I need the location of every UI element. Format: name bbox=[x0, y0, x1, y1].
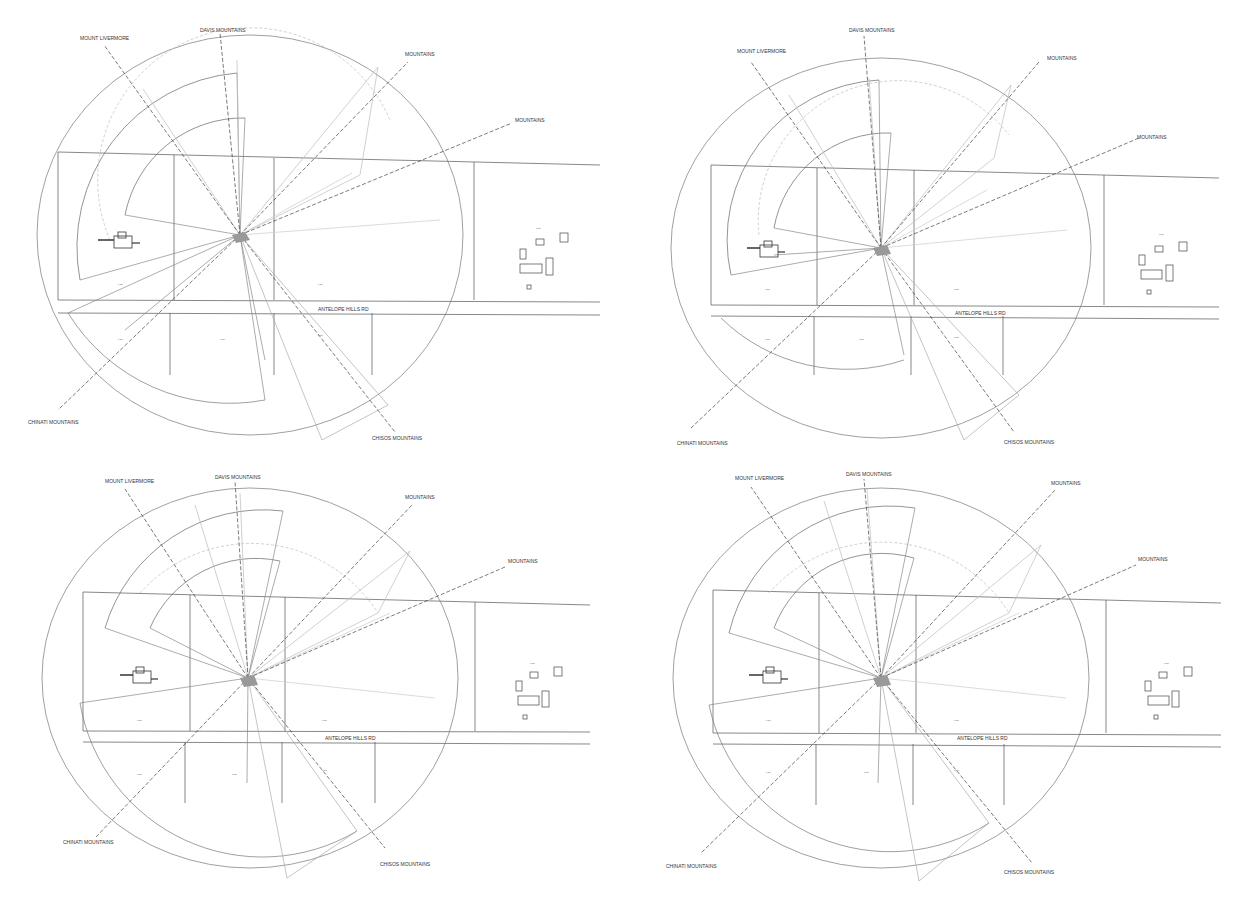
lot-labels: LOT LOT LOT LOT LOT LOT bbox=[765, 233, 1164, 341]
label-mountains-ene: MOUNTAINS bbox=[515, 117, 545, 123]
label-chisos-mountains: CHISOS MOUNTAINS bbox=[380, 861, 431, 867]
outbuildings-group bbox=[516, 667, 562, 719]
site-plan-panel-top-left: LOT LOT LOT LOT LOT LOT MOUNT LIVERMORE … bbox=[0, 0, 619, 453]
outbuildings-group bbox=[520, 233, 568, 289]
view-cone-diagram: LOT LOT LOT LOT LOT LOT MOUNT LIVERMORE … bbox=[619, 0, 1238, 453]
svg-text:LOT: LOT bbox=[766, 771, 771, 774]
svg-text:LOT: LOT bbox=[318, 334, 323, 337]
svg-text:LOT: LOT bbox=[1159, 233, 1164, 236]
outbuildings-group bbox=[1145, 667, 1192, 719]
label-mountains-ene: MOUNTAINS bbox=[1137, 134, 1167, 140]
residence-icon bbox=[749, 667, 788, 683]
svg-text:LOT: LOT bbox=[137, 773, 142, 776]
svg-text:LOT: LOT bbox=[864, 771, 869, 774]
site-plan-panel-top-right: LOT LOT LOT LOT LOT LOT MOUNT LIVERMORE … bbox=[619, 0, 1238, 453]
label-chisos-mountains: CHISOS MOUNTAINS bbox=[1004, 869, 1055, 875]
svg-text:LOT: LOT bbox=[954, 288, 959, 291]
label-davis-mountains: DAVIS MOUNTAINS bbox=[849, 27, 895, 33]
label-davis-mountains: DAVIS MOUNTAINS bbox=[846, 471, 892, 477]
label-chinati-mountains: CHINATI MOUNTAINS bbox=[63, 839, 114, 845]
svg-text:LOT: LOT bbox=[137, 719, 142, 722]
outbuildings-group bbox=[1139, 242, 1187, 294]
svg-text:LOT: LOT bbox=[1164, 662, 1169, 665]
viewpoint-marker bbox=[873, 245, 891, 256]
label-mount-livermore: MOUNT LIVERMORE bbox=[735, 475, 785, 481]
label-mountains-ne: MOUNTAINS bbox=[405, 494, 435, 500]
view-cone-diagram: LOT LOT LOT LOT LOT LOT MOUNT LIVERMORE … bbox=[619, 453, 1238, 906]
label-road: ANTELOPE HILLS RD bbox=[955, 310, 1006, 316]
lot-labels: LOT LOT LOT LOT LOT LOT bbox=[118, 227, 541, 341]
site-plan-panel-bottom-right: LOT LOT LOT LOT LOT LOT MOUNT LIVERMORE … bbox=[619, 453, 1238, 906]
svg-text:LOT: LOT bbox=[954, 336, 959, 339]
label-mount-livermore: MOUNT LIVERMORE bbox=[105, 478, 155, 484]
viewpoint-marker bbox=[232, 232, 250, 243]
site-plan-panel-bottom-left: LOT LOT LOT LOT LOT LOT MOUNT LIVERMORE … bbox=[0, 453, 619, 906]
svg-text:LOT: LOT bbox=[859, 338, 864, 341]
label-chisos-mountains: CHISOS MOUNTAINS bbox=[1004, 439, 1055, 445]
label-davis-mountains: DAVIS MOUNTAINS bbox=[215, 474, 261, 480]
lot-labels: LOT LOT LOT LOT LOT LOT bbox=[766, 662, 1169, 774]
svg-text:LOT: LOT bbox=[954, 769, 959, 772]
viewpoint-marker bbox=[240, 675, 258, 687]
label-chinati-mountains: CHINATI MOUNTAINS bbox=[666, 863, 717, 869]
label-chisos-mountains: CHISOS MOUNTAINS bbox=[372, 435, 423, 441]
svg-text:LOT: LOT bbox=[765, 288, 770, 291]
svg-text:LOT: LOT bbox=[322, 769, 327, 772]
label-road: ANTELOPE HILLS RD bbox=[318, 306, 369, 312]
svg-text:LOT: LOT bbox=[318, 283, 323, 286]
label-mountains-ne: MOUNTAINS bbox=[1051, 480, 1081, 486]
label-mount-livermore: MOUNT LIVERMORE bbox=[80, 35, 130, 41]
label-mountains-ene: MOUNTAINS bbox=[1138, 556, 1168, 562]
label-chinati-mountains: CHINATI MOUNTAINS bbox=[677, 440, 728, 446]
svg-text:LOT: LOT bbox=[118, 283, 123, 286]
view-cone-diagram: LOT LOT LOT LOT LOT LOT MOUNT LIVERMORE … bbox=[0, 453, 619, 906]
svg-text:LOT: LOT bbox=[765, 338, 770, 341]
svg-text:LOT: LOT bbox=[954, 719, 959, 722]
svg-text:LOT: LOT bbox=[220, 338, 225, 341]
label-mountains-ene: MOUNTAINS bbox=[508, 558, 538, 564]
viewpoint-marker bbox=[873, 675, 891, 687]
svg-text:LOT: LOT bbox=[118, 338, 123, 341]
residence-icon bbox=[120, 667, 158, 683]
svg-text:LOT: LOT bbox=[766, 719, 771, 722]
lot-labels: LOT LOT LOT LOT LOT LOT bbox=[137, 662, 535, 776]
svg-text:LOT: LOT bbox=[530, 662, 535, 665]
label-davis-mountains: DAVIS MOUNTAINS bbox=[200, 27, 246, 33]
residence-icon bbox=[98, 232, 140, 248]
label-mount-livermore: MOUNT LIVERMORE bbox=[737, 48, 787, 54]
label-mountains-ne: MOUNTAINS bbox=[1047, 55, 1077, 61]
svg-text:LOT: LOT bbox=[536, 227, 541, 230]
label-chinati-mountains: CHINATI MOUNTAINS bbox=[28, 419, 79, 425]
label-road: ANTELOPE HILLS RD bbox=[325, 735, 376, 741]
view-cone-diagram: LOT LOT LOT LOT LOT LOT MOUNT LIVERMORE … bbox=[0, 0, 619, 453]
label-mountains-ne: MOUNTAINS bbox=[405, 51, 435, 57]
svg-text:LOT: LOT bbox=[232, 773, 237, 776]
label-road: ANTELOPE HILLS RD bbox=[957, 735, 1008, 741]
svg-text:LOT: LOT bbox=[322, 719, 327, 722]
